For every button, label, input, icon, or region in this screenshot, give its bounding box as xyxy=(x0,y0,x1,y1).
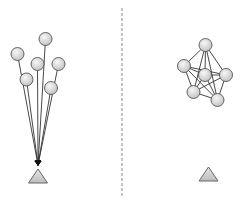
agent-node xyxy=(178,60,191,73)
agent-node xyxy=(211,94,224,107)
left-target-triangle xyxy=(29,169,48,183)
agent-node xyxy=(220,69,233,82)
right-target-triangle xyxy=(199,167,218,181)
agent-node xyxy=(199,69,212,82)
agent-node xyxy=(39,33,52,46)
edge-to-target xyxy=(18,54,39,165)
agent-node xyxy=(45,82,58,95)
diagram-canvas xyxy=(0,0,244,208)
agent-node xyxy=(199,39,212,52)
agent-node xyxy=(31,58,44,71)
edge-to-target xyxy=(38,64,39,165)
agent-node xyxy=(20,73,33,86)
agent-node xyxy=(187,86,200,99)
edge-to-target xyxy=(27,80,39,166)
agent-node xyxy=(11,48,24,61)
agent-node xyxy=(52,58,65,71)
